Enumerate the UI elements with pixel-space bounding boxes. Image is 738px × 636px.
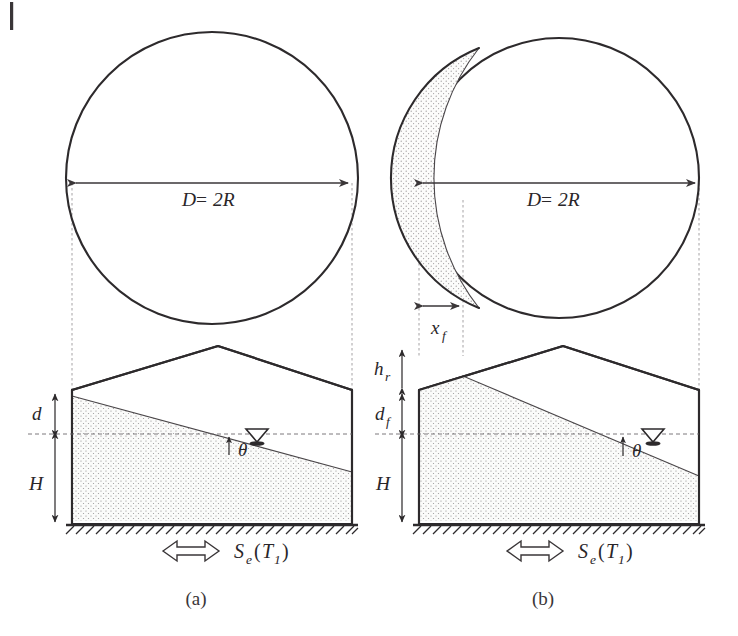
water-table-triangle-b [642, 429, 664, 446]
hr-r-sub-b: r [385, 369, 391, 384]
theta-label-b: θ [632, 440, 641, 461]
water-table-triangle-a [246, 429, 268, 446]
caption-b: (b) [532, 588, 554, 610]
df-f-sub-b: f [386, 414, 392, 429]
paren-open-a: ( [254, 540, 261, 563]
d-label-a: d [32, 403, 42, 424]
saturated-fill-b [419, 376, 699, 521]
ground-hatching-a [66, 526, 358, 534]
diameter-label-b: D = 2R [526, 189, 580, 210]
paren-open-b: ( [598, 540, 605, 563]
paren-close-a: ) [282, 540, 289, 563]
theta-label-a: θ [238, 439, 247, 460]
xf-f-sub-b: f [442, 328, 448, 343]
saturated-fill-a [72, 396, 352, 521]
Se-e-sub-b: e [590, 552, 596, 567]
ground-hatching-b [413, 526, 705, 534]
plan-circle-a [66, 32, 358, 324]
H-label-b: H [375, 473, 391, 494]
diameter-equals-b: = [541, 189, 552, 210]
figure-container: D = 2R θ [0, 0, 738, 636]
diameter-label-a: D = 2R [181, 189, 235, 210]
settlement-label-a: S e ( T 1 ) [234, 540, 289, 567]
dimension-df-b: d f [375, 394, 402, 432]
H-label-a: H [28, 473, 44, 494]
plan-circle-b [419, 38, 699, 318]
hr-h-label-b: h [374, 358, 384, 379]
subfigure-a: D = 2R θ [28, 32, 358, 610]
settlement-arrow-a [163, 541, 219, 561]
diameter-D-label-b: D [526, 189, 541, 210]
settlement-label-b: S e ( T 1 ) [578, 540, 633, 567]
caption-a: (a) [185, 588, 206, 610]
dimension-d-a: d [32, 394, 55, 432]
subfigure-b: D = 2R x f θ [374, 38, 705, 610]
diameter-2R-label-b: 2R [558, 189, 580, 210]
dimension-hr-b: h r [374, 350, 402, 388]
figure-svg: D = 2R θ [0, 0, 738, 636]
dimension-H-a: H [28, 437, 55, 522]
paren-close-b: ) [626, 540, 633, 563]
dimension-H-b: H [375, 437, 402, 522]
page-margin-mark [10, 2, 13, 30]
diameter-D-label-a: D [181, 189, 196, 210]
Se-e-sub-a: e [246, 552, 252, 567]
diameter-equals-a: = [196, 189, 207, 210]
Se-S-label-b: S [578, 540, 588, 562]
settlement-arrow-b [507, 541, 563, 561]
df-d-label-b: d [375, 403, 385, 424]
Se-S-label-a: S [234, 540, 244, 562]
dimension-xf-b: x f [423, 306, 459, 343]
xf-x-label-b: x [430, 317, 440, 338]
T-sub-1-a: 1 [274, 552, 281, 567]
T-sub-1-b: 1 [618, 552, 625, 567]
diameter-2R-label-a: 2R [213, 189, 235, 210]
scour-region-fill-b [391, 48, 479, 308]
